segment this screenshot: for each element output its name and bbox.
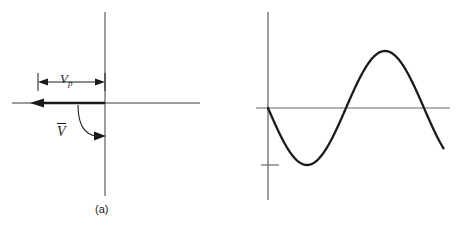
phasor-arrow — [30, 98, 105, 107]
label-phasor-vbar-text: V — [57, 123, 66, 139]
figure-container: Vp V (a) −Vp sin ωt −Vp t (b) — [0, 0, 467, 233]
panel-a-caption: (a) — [95, 203, 108, 215]
panel-a-svg — [0, 0, 234, 233]
label-phasor-vbar: V — [57, 123, 66, 139]
panel-b-waveform: −Vp sin ωt −Vp t (b) — [234, 0, 467, 233]
panel-b-svg — [234, 0, 467, 233]
panel-a-phasor-diagram: Vp V (a) — [0, 0, 234, 233]
label-vp-magnitude: Vp — [60, 72, 72, 88]
label-vp-magnitude-sub: p — [68, 78, 73, 88]
angle-arc-arrow — [78, 105, 106, 140]
label-vp-magnitude-v: V — [60, 71, 68, 86]
